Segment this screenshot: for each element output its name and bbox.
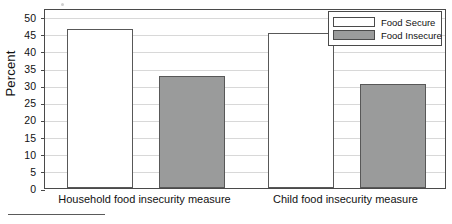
y-tick-mark-0 (41, 190, 45, 191)
y-tick-label-5: 5 (12, 166, 36, 178)
x-axis-group-label-2: Child food insecurity measure (273, 193, 418, 205)
legend-swatch-food-insecure (333, 30, 375, 40)
y-tick-mark-20 (41, 121, 45, 122)
y-tick-label-20: 20 (12, 114, 36, 126)
x-axis-group-label-1: Household food insecurity measure (58, 193, 230, 205)
legend-item-food-insecure: Food Insecure (333, 29, 437, 41)
y-tick-mark-10 (41, 155, 45, 156)
y-tick-label-10: 10 (12, 149, 36, 161)
y-tick-label-15: 15 (12, 132, 36, 144)
y-tick-label-25: 25 (12, 97, 36, 109)
bar-food-secure-group-2 (268, 33, 334, 188)
y-tick-mark-35 (41, 70, 45, 71)
y-tick-label-35: 35 (12, 63, 36, 75)
y-tick-mark-15 (41, 138, 45, 139)
y-tick-mark-40 (41, 52, 45, 53)
legend-swatch-food-secure (333, 17, 375, 27)
y-tick-mark-45 (41, 35, 45, 36)
y-tick-label-45: 45 (12, 29, 36, 41)
bar-food-insecure-group-1 (159, 76, 225, 188)
gridline-0 (45, 190, 445, 191)
legend-item-food-secure: Food Secure (333, 16, 437, 28)
bar-food-secure-group-1 (67, 29, 133, 188)
y-tick-mark-30 (41, 87, 45, 88)
y-tick-mark-5 (41, 172, 45, 173)
chart-legend: Food Secure Food Insecure (328, 11, 442, 46)
footnote-separator-rule (8, 214, 105, 215)
y-tick-mark-50 (41, 18, 45, 19)
y-tick-label-50: 50 (12, 12, 36, 24)
legend-label-food-insecure: Food Insecure (381, 30, 442, 41)
y-tick-label-0: 0 (12, 183, 36, 195)
bar-food-insecure-group-2 (360, 84, 426, 188)
y-tick-label-40: 40 (12, 46, 36, 58)
bar-chart-figure: Percent Food Secure Food Insecure 051015… (0, 0, 452, 224)
y-tick-mark-25 (41, 104, 45, 105)
scan-artifact (61, 3, 64, 6)
y-tick-label-30: 30 (12, 80, 36, 92)
legend-label-food-secure: Food Secure (381, 17, 435, 28)
